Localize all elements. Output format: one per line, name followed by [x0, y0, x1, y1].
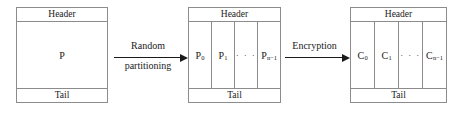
partition-ellipsis-cell: · · · [235, 22, 258, 88]
packet-tail-band: Tail [189, 88, 280, 102]
partition-cell-base: P [219, 50, 225, 61]
partition-cell-sub: 0 [201, 54, 204, 61]
packet-header-label: Header [385, 10, 412, 20]
plaintext-body-label: P [59, 50, 65, 61]
partition-cell-base: P [261, 50, 267, 61]
arrow-head-icon [342, 54, 350, 62]
ellipsis-icon: · · · [236, 50, 257, 60]
partition-cell-base: P [196, 50, 202, 61]
packet-header-band: Header [351, 8, 446, 22]
packet-body: C0 C1 · · · Cn−1 [351, 22, 446, 88]
arrow-label-bottom: partitioning [114, 59, 182, 72]
packet-tail-band: Tail [351, 88, 446, 102]
cipher-ellipsis-cell: · · · [399, 22, 423, 88]
arrow-line [114, 57, 181, 58]
cipher-cell-base: C [382, 50, 389, 61]
cipher-cell: C0 [351, 22, 375, 88]
cipher-cell-base: C [426, 50, 433, 61]
packet-header-label: Header [48, 10, 75, 20]
packet-tail-label: Tail [391, 91, 406, 101]
cipher-cell: C1 [375, 22, 399, 88]
cipher-cell-base: C [358, 50, 365, 61]
cipher-cell-sub: 1 [388, 54, 391, 61]
partitioned-packet: Header P0 P1 · · · Pn−1 Tail [188, 7, 281, 103]
cipher-cell-sub: n−1 [433, 54, 443, 61]
arrow-line [285, 57, 343, 58]
partition-cell: P0 [189, 22, 212, 88]
packet-tail-label: Tail [55, 91, 70, 101]
packet-tail-label: Tail [227, 91, 242, 101]
encryption-arrow: Encryption [285, 37, 350, 77]
packet-header-band: Header [189, 8, 280, 22]
cipher-cell: Cn−1 [423, 22, 446, 88]
packet-body: P0 P1 · · · Pn−1 [189, 22, 280, 88]
packet-tail-band: Tail [17, 88, 107, 102]
ciphertext-packet: Header C0 C1 · · · Cn−1 Tail [350, 7, 447, 103]
partition-cell: P1 [212, 22, 235, 88]
random-partitioning-arrow: Random partitioning [114, 37, 188, 77]
packet-body: P [17, 22, 107, 88]
partition-cell: Pn−1 [258, 22, 280, 88]
packet-header-label: Header [221, 10, 248, 20]
partition-cell-sub: n−1 [267, 54, 277, 61]
arrow-label-top: Random [114, 39, 182, 52]
ellipsis-icon: · · · [400, 50, 421, 60]
cipher-cell-sub: 0 [364, 54, 367, 61]
arrow-label-top: Encryption [285, 39, 344, 52]
packet-header-band: Header [17, 8, 107, 22]
partition-cell-sub: 1 [224, 54, 227, 61]
plaintext-packet: Header P Tail [16, 7, 108, 103]
